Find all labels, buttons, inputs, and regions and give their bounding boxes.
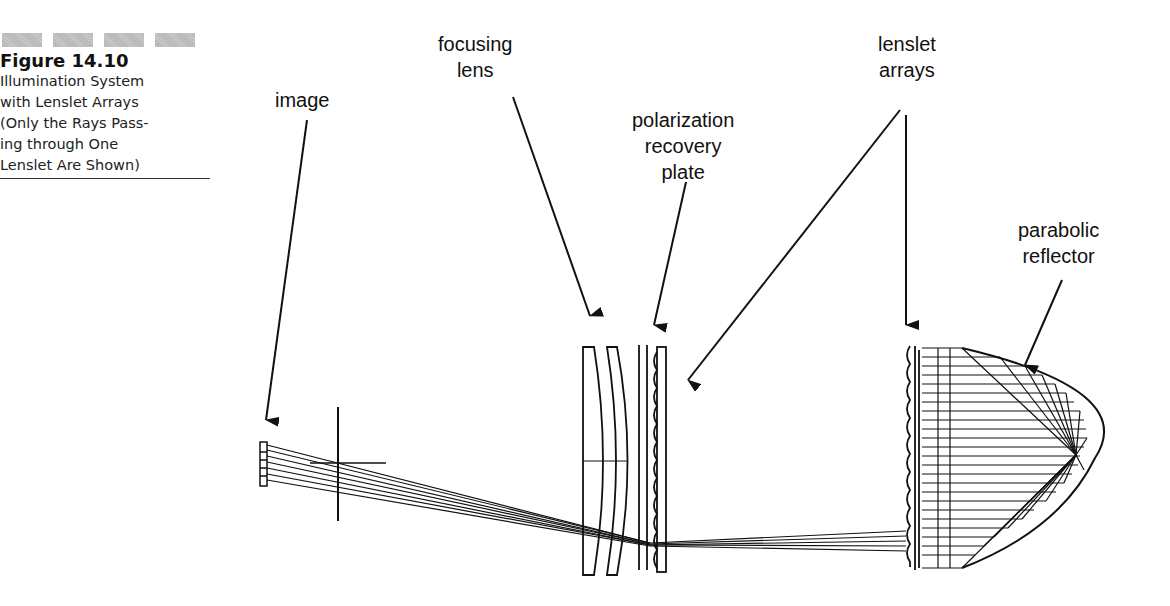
arrow-image (266, 120, 307, 420)
arrow-lenslet-left (688, 110, 900, 380)
lenslet-array (907, 346, 919, 570)
optical-diagram (0, 0, 1170, 606)
arrow-focusing-lens (513, 97, 590, 316)
arrow-parabolic (1025, 280, 1062, 365)
polarization-recovery-plate (654, 347, 666, 572)
parabolic-reflector (922, 348, 1104, 568)
collimated-rays (922, 348, 1087, 568)
arrow-polarization-plate (654, 182, 686, 325)
